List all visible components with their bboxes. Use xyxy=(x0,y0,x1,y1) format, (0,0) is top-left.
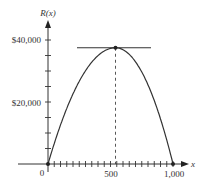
zero-point-1000 xyxy=(171,162,175,166)
revenue-curve xyxy=(48,48,173,164)
y-axis-arrow-icon xyxy=(45,20,51,28)
origin-point xyxy=(46,162,50,166)
revenue-chart: R(x) x 0 $40,000 $20,000 500 1,000 xyxy=(0,0,206,191)
y-tick-label-40000: $40,000 xyxy=(12,35,42,45)
origin-label: 0 xyxy=(40,168,45,178)
maximum-point xyxy=(114,46,118,50)
y-axis-label: R(x) xyxy=(39,8,56,18)
x-tick-label-500: 500 xyxy=(104,169,118,179)
x-tick-label-1000: 1,000 xyxy=(164,169,185,179)
x-axis-label: x xyxy=(190,159,195,169)
y-tick-label-20000: $20,000 xyxy=(12,98,42,108)
plot-area xyxy=(46,46,175,166)
axes xyxy=(18,20,189,172)
x-axis-arrow-icon xyxy=(181,161,189,167)
